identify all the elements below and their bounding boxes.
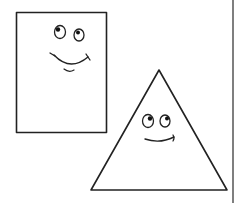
square-left-pupil [56, 27, 60, 31]
square-outline [17, 13, 107, 133]
square-right-pupil [76, 31, 80, 35]
square-smile [54, 55, 88, 64]
square-left-eye [55, 26, 66, 39]
triangle-left-pupil [148, 116, 152, 120]
square-face [50, 26, 90, 72]
illustration-canvas [0, 0, 241, 203]
triangle-character [91, 70, 227, 190]
square-character [17, 13, 107, 133]
square-chin [64, 69, 74, 71]
triangle-outline [91, 70, 227, 190]
square-smile-right-dimple [86, 54, 90, 60]
triangle-right-pupil [165, 117, 169, 121]
